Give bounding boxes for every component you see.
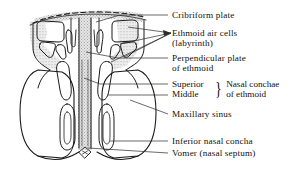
label-nasal-conchae-line1: Nasal conchae — [226, 79, 279, 89]
perpendicular-plate-shading — [78, 17, 92, 150]
inferior-nasal-concha-left — [60, 104, 75, 150]
nasal-crest-cross — [83, 151, 88, 154]
brace-icon: } — [215, 79, 221, 99]
label-nasal-conchae-line2: of ethmoid — [226, 89, 279, 99]
maxillary-sinus-left — [20, 70, 74, 158]
label-conchae-names: Superior Middle — [172, 79, 214, 100]
label-perpendicular-plate: Perpendicular plate of ethmoid — [172, 53, 246, 74]
leader-superior-concha — [84, 78, 168, 84]
inferior-nasal-concha-right — [99, 104, 114, 150]
inferior-nasal-concha-left-inner — [64, 112, 71, 144]
ethmoid-air-cell-left-lateral — [56, 45, 66, 59]
leader-maxillary-sinus — [130, 100, 168, 114]
lateral-nasal-wall-right — [126, 70, 138, 88]
inferior-nasal-concha-right-inner — [103, 112, 110, 144]
label-cribriform-plate: Cribriform plate — [172, 10, 234, 20]
lateral-nasal-wall-left — [38, 70, 50, 88]
label-maxillary-sinus: Maxillary sinus — [172, 109, 232, 119]
shaded-bone-regions — [30, 11, 143, 150]
label-ethmoid-air-cells-line1: Ethmoid air cells — [172, 28, 237, 38]
label-ethmoid-air-cells: Ethmoid air cells (labyrinth) — [172, 28, 237, 49]
label-middle-concha: Middle — [172, 89, 214, 99]
label-vomer: Vomer (nasal septum) — [172, 148, 255, 158]
label-nasal-conchae-of-ethmoid: Nasal conchae of ethmoid — [226, 79, 279, 100]
label-nasal-conchae-group: Superior Middle } Nasal conchae of ethmo… — [172, 79, 279, 100]
superior-nasal-concha-right — [97, 30, 103, 53]
anatomy-figure: Cribriform plate Ethmoid air cells (laby… — [0, 0, 297, 181]
leader-vomer — [88, 148, 168, 153]
label-superior-concha: Superior — [172, 79, 214, 89]
hard-palate-left — [38, 152, 79, 159]
label-ethmoid-air-cells-line2: (labyrinth) — [172, 38, 237, 48]
middle-nasal-concha-left — [57, 61, 72, 100]
label-perpendicular-plate-line1: Perpendicular plate — [172, 53, 246, 63]
label-perpendicular-plate-line2: of ethmoid — [172, 63, 246, 73]
hard-palate-right — [97, 152, 138, 159]
label-inferior-nasal-concha: Inferior nasal concha — [172, 136, 253, 146]
